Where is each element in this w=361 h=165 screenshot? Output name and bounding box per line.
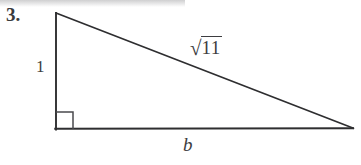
right-triangle-diagram: [0, 0, 361, 165]
vertical-leg-length-label: 1: [36, 58, 45, 75]
geometry-figure-canvas: 3. 1 √11 b: [0, 0, 361, 165]
horizontal-leg-length-label: b: [183, 135, 193, 154]
triangle-hypotenuse: [56, 13, 354, 128]
hypotenuse-length-label: √11: [190, 36, 222, 59]
triangle-horizontal-leg: [55, 128, 353, 129]
right-angle-marker-icon: [56, 112, 73, 129]
radicand-value: 11: [201, 36, 222, 57]
